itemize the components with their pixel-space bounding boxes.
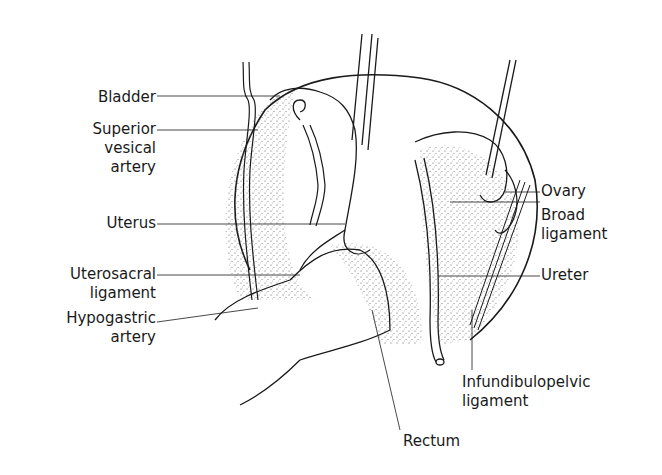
label-line: Uterus <box>106 214 156 233</box>
label-line: Ovary <box>541 182 586 201</box>
label-ovary: Ovary <box>541 182 586 201</box>
label-uterus: Uterus <box>106 214 156 233</box>
uterine-vessel <box>303 125 325 226</box>
cul-de-sac-region <box>330 243 422 345</box>
label-line: Bladder <box>98 88 156 107</box>
label-line: ligament <box>462 392 591 411</box>
label-line: Hypogastric <box>66 309 156 328</box>
label-line: Rectum <box>403 432 460 451</box>
label-line: ligament <box>541 225 607 244</box>
label-superior-vesical-artery: Superior vesical artery <box>93 120 156 177</box>
label-ureter: Ureter <box>541 266 588 285</box>
label-bladder: Bladder <box>98 88 156 107</box>
label-line: artery <box>66 328 156 347</box>
label-line: ligament <box>70 284 156 303</box>
label-line: Ureter <box>541 266 588 285</box>
label-line: Uterosacral <box>70 265 156 284</box>
label-line: Broad <box>541 206 607 225</box>
label-hypogastric-artery: Hypogastric artery <box>66 309 156 347</box>
broad-ligament-region <box>420 146 519 345</box>
label-infundibulopelvic-ligament: Infundibulopelvic ligament <box>462 373 591 411</box>
label-line: Infundibulopelvic <box>462 373 591 392</box>
label-line: vesical <box>93 139 156 158</box>
label-uterosacral-ligament: Uterosacral ligament <box>70 265 156 303</box>
label-line: Superior <box>93 120 156 139</box>
label-rectum: Rectum <box>403 432 460 451</box>
label-line: artery <box>93 158 156 177</box>
label-broad-ligament: Broad ligament <box>541 206 607 244</box>
